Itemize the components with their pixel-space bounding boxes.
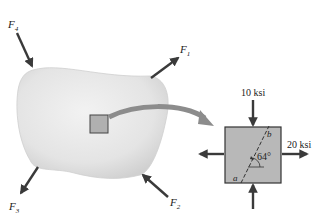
angle-label: 64° [257,151,271,162]
label-f3: F3 [8,200,20,215]
point-b-label: b [267,129,272,139]
label-f4: F4 [7,18,19,33]
small-element-square [90,115,108,133]
force-arrow-f1 [151,58,178,78]
force-arrow-f4 [17,33,32,66]
force-arrow-f2 [143,175,168,197]
top-stress-label: 10 ksi [241,87,265,98]
force-arrow-f3 [21,167,38,193]
label-f1: F1 [179,43,190,58]
right-stress-label: 20 ksi [287,139,311,150]
label-f2: F2 [169,196,181,211]
stress-diagram: F4 F1 F3 F2 10 ksi 20 ksi a b 64° [0,0,325,221]
transfer-arrow-head [198,110,214,126]
point-a-label: a [233,173,238,183]
